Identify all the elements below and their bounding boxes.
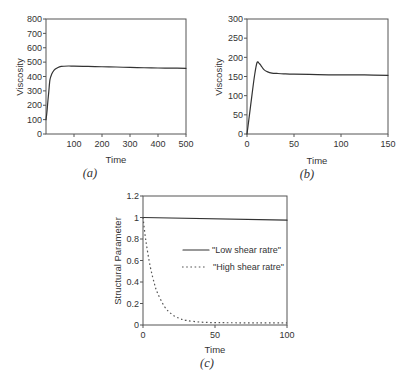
y-tick-label: 1.2 — [126, 191, 139, 201]
legend-label: "High shear ratre" — [213, 262, 284, 272]
y-tick-label: 1 — [134, 213, 139, 223]
x-tick-label: 200 — [94, 139, 109, 149]
x-tick-label: 300 — [122, 139, 137, 149]
y-tick-label: 100 — [27, 115, 42, 125]
y-tick-label: 300 — [228, 14, 243, 24]
x-tick-label: 100 — [66, 139, 81, 149]
y-tick-label: 0 — [37, 129, 42, 139]
y-tick-label: 250 — [228, 33, 243, 43]
y-axis-label: Viscosity — [213, 58, 224, 96]
y-axis-label: Viscosity — [14, 58, 25, 96]
y-tick-label: 400 — [27, 72, 42, 82]
panel-caption: (c) — [200, 356, 214, 370]
x-tick-label: 500 — [178, 139, 193, 149]
series-line-solid — [46, 66, 186, 120]
y-tick-label: 150 — [228, 72, 243, 82]
figure-panels: 0100200300400500600700800100200300400500… — [0, 0, 401, 384]
legend: "Low shear ratre""High shear ratre" — [182, 245, 284, 272]
x-axis-label: Time — [205, 344, 226, 355]
x-tick-label: 100 — [279, 330, 294, 340]
chart-panel-b: 050100150200250300050100150TimeViscosity… — [213, 14, 396, 181]
series-line-solid — [143, 218, 287, 221]
legend-label: "Low shear ratre" — [212, 245, 281, 255]
panel-caption: (a) — [83, 166, 98, 180]
x-tick-label: 0 — [244, 139, 249, 149]
plot-frame — [247, 19, 388, 134]
y-tick-label: 700 — [27, 29, 42, 39]
y-tick-label: 500 — [27, 57, 42, 67]
legend-item: "High shear ratre" — [182, 262, 284, 272]
y-tick-label: 0.8 — [126, 234, 139, 244]
chart-panel-c: 00.20.40.60.811.2050100TimeStructural Pa… — [112, 191, 295, 370]
series-line-solid — [247, 62, 388, 134]
x-tick-label: 150 — [380, 139, 395, 149]
x-tick-label: 400 — [150, 139, 165, 149]
y-tick-label: 0 — [134, 320, 139, 330]
y-tick-label: 0.6 — [126, 256, 139, 266]
legend-item: "Low shear ratre" — [183, 245, 281, 255]
y-tick-label: 600 — [27, 43, 42, 53]
x-tick-label: 50 — [289, 139, 299, 149]
chart-panel-a: 0100200300400500600700800100200300400500… — [14, 14, 194, 180]
y-tick-label: 300 — [27, 86, 42, 96]
y-tick-label: 100 — [228, 91, 243, 101]
x-axis-label: Time — [307, 155, 328, 166]
x-tick-label: 100 — [333, 139, 348, 149]
y-tick-label: 50 — [233, 110, 243, 120]
y-tick-label: 200 — [27, 100, 42, 110]
y-tick-label: 800 — [27, 14, 42, 24]
y-tick-label: 0.2 — [126, 299, 139, 309]
y-tick-label: 0.4 — [126, 277, 139, 287]
y-tick-label: 200 — [228, 53, 243, 63]
x-tick-label: 50 — [210, 330, 220, 340]
y-axis-label: Structural Parameter — [112, 217, 123, 305]
x-axis-label: Time — [106, 154, 127, 165]
panel-caption: (b) — [300, 167, 315, 181]
plot-frame — [143, 196, 287, 325]
plot-frame — [46, 19, 186, 134]
y-tick-label: 0 — [238, 129, 243, 139]
x-tick-label: 0 — [140, 330, 145, 340]
